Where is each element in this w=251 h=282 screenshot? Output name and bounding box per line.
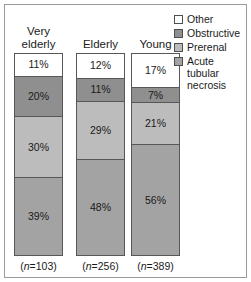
legend-item-label: Obstructive: [187, 27, 240, 39]
segment-value-label: 7%: [148, 90, 163, 101]
segment-value-label: 11%: [90, 84, 110, 95]
segment-value-label: 56%: [145, 195, 166, 206]
legend-item: Obstructive: [174, 27, 248, 39]
bar-segment: 12%: [77, 54, 124, 79]
chart-legend: OtherObstructivePrerenalAcute tubular ne…: [174, 13, 248, 93]
legend-item: Other: [174, 13, 248, 25]
bar-segment: 21%: [132, 103, 179, 145]
bar-segment: 11%: [77, 79, 124, 102]
stacked-bar: 11%20%30%39%: [14, 53, 63, 256]
legend-swatch-icon: [174, 57, 183, 66]
bar-segment: 56%: [132, 145, 179, 255]
bar-column: Very elderly11%20%30%39%(n=103): [14, 18, 63, 272]
legend-swatch-icon: [174, 43, 183, 52]
legend-swatch-icon: [174, 15, 183, 24]
segment-value-label: 29%: [90, 125, 111, 136]
segment-value-label: 39%: [28, 211, 49, 222]
legend-item: Acute tubular necrosis: [174, 55, 248, 91]
bar-segment: 29%: [77, 102, 124, 160]
stacked-bar: 12%11%29%48%: [76, 53, 125, 256]
stacked-bar: 17%7%21%56%: [131, 53, 180, 256]
n-value: =256): [92, 260, 119, 272]
column-sample-size: (n=103): [20, 260, 57, 272]
segment-value-label: 12%: [90, 60, 111, 71]
column-sample-size: (n=256): [82, 260, 119, 272]
column-title: Young: [139, 18, 171, 50]
segment-value-label: 21%: [145, 118, 166, 129]
legend-item-label: Acute tubular necrosis: [187, 55, 248, 91]
legend-item-label: Other: [187, 13, 213, 25]
segment-value-label: 17%: [145, 65, 166, 76]
bar-segment: 20%: [15, 77, 62, 118]
legend-item-label: Prerenal: [187, 41, 227, 53]
n-value: =389): [147, 260, 174, 272]
bar-column: Elderly12%11%29%48%(n=256): [76, 18, 125, 272]
column-title: Very elderly: [22, 18, 56, 50]
column-sample-size: (n=389): [137, 260, 174, 272]
stacked-bar-chart-figure: Very elderly11%20%30%39%(n=103)Elderly12…: [0, 0, 251, 282]
bar-column: Young17%7%21%56%(n=389): [131, 18, 180, 272]
legend-swatch-icon: [174, 29, 183, 38]
plot-area: Very elderly11%20%30%39%(n=103)Elderly12…: [0, 0, 180, 282]
segment-value-label: 48%: [90, 202, 111, 213]
segment-value-label: 30%: [28, 142, 49, 153]
bar-segment: 30%: [15, 117, 62, 177]
segment-value-label: 20%: [28, 91, 49, 102]
segment-value-label: 11%: [28, 59, 48, 70]
legend-item: Prerenal: [174, 41, 248, 53]
bar-segment: 17%: [132, 54, 179, 88]
column-title: Elderly: [83, 18, 118, 50]
bar-segment: 48%: [77, 160, 124, 255]
bar-segment: 11%: [15, 54, 62, 77]
bar-segment: 7%: [132, 88, 179, 103]
bar-segment: 39%: [15, 178, 62, 255]
n-value: =103): [30, 260, 57, 272]
